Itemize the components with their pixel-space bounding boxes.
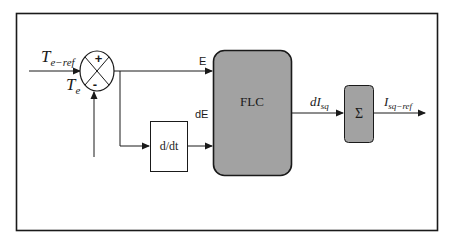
- flc-block: FLC: [214, 51, 292, 176]
- error-derivative-label: dE: [195, 108, 208, 120]
- integrator-block: Σ: [345, 86, 374, 143]
- plus-sign: +: [95, 51, 103, 66]
- reference-input-label: Te−ref: [41, 47, 77, 68]
- summing-junction: + -: [80, 51, 114, 92]
- derivative-branch-line: [120, 71, 149, 146]
- flc-block-diagram: Te−ref Te + - E d/dt dE FLC dIsq Σ: [0, 0, 454, 243]
- derivative-block: d/dt: [151, 122, 188, 172]
- derivative-block-label: d/dt: [160, 139, 179, 153]
- minus-sign: -: [93, 77, 97, 92]
- output-label: Isq−ref: [383, 94, 414, 111]
- integrator-block-label: Σ: [355, 106, 363, 121]
- flc-output-label: dIsq: [310, 94, 329, 111]
- error-signal-label: E: [199, 55, 206, 67]
- feedback-input-label: Te: [66, 75, 80, 96]
- flc-block-label: FLC: [240, 94, 264, 109]
